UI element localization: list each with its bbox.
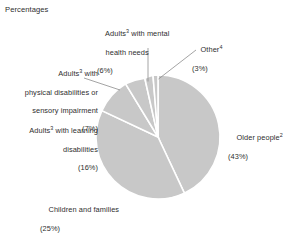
slice-label-physical-disabilities-line1-a: Adults [58, 69, 79, 78]
slice-percent-learning-disabilities: (16%) [8, 163, 98, 172]
slice-label-other-line1-a: Other [201, 45, 220, 54]
slice-label-older-people: Older people2 (43%) [228, 124, 292, 179]
slice-label-older-people-footnote: 2 [280, 132, 283, 138]
slice-percent-other: (3%) [192, 64, 240, 73]
slice-percent-children-and-families: (25%) [40, 224, 136, 233]
slice-label-older-people-line1-a: Older people [237, 133, 280, 142]
slice-label-other: Other4 (3%) [192, 36, 240, 91]
slice-label-physical-disabilities-line2: physical disabilities or [25, 88, 98, 97]
slice-percent-mental-health-needs: (6%) [97, 66, 183, 75]
slice-label-mental-health-needs-line2: health needs [106, 48, 149, 57]
slice-label-mental-health-needs-line1-a: Adults [105, 29, 126, 38]
slice-label-mental-health-needs-line1-b: with mental [129, 29, 169, 38]
pie-chart-figure: Percentages Adults3 with mental health n… [0, 0, 296, 235]
slice-label-mental-health-needs: Adults3 with mental health needs (6%) [97, 20, 183, 94]
slice-label-physical-disabilities-line3: sensory impairment [32, 106, 98, 115]
slice-label-learning-disabilities-line2: disabilities [63, 145, 98, 154]
slice-label-other-footnote: 4 [219, 44, 222, 50]
slice-label-children-and-families-line1-a: Children and families [49, 205, 120, 214]
slice-percent-older-people: (43%) [228, 152, 292, 161]
slice-label-learning-disabilities-line1-a: Adults [29, 126, 50, 135]
slice-label-learning-disabilities-line1-b: with learning [53, 126, 98, 135]
slice-label-learning-disabilities: Adults3 with learning disabilities (16%) [8, 117, 98, 191]
slice-label-children-and-families: Children and families (25%) [40, 196, 136, 235]
slice-label-physical-disabilities-line1-b: with [82, 69, 98, 78]
